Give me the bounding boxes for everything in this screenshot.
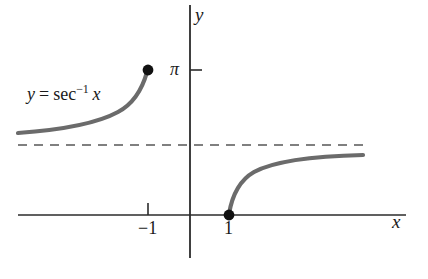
x-tick-label-negative-one: −1 [138, 219, 157, 237]
tick-marks-group [148, 70, 202, 215]
equation-argument: x [93, 84, 101, 104]
figure-container: y x π −1 1 y=sec−1x [0, 0, 428, 279]
x-tick-label-one: 1 [224, 219, 233, 237]
y-axis-label: y [195, 5, 203, 24]
sec-inverse-right-branch-curve [229, 155, 363, 214]
equation-lhs: y [27, 84, 35, 104]
axes-group [18, 5, 406, 258]
equation-equals-sign: = [39, 84, 49, 104]
equation-exponent: −1 [76, 82, 88, 96]
left-branch-endpoint-dot [143, 65, 154, 76]
equation-function-name: sec [53, 84, 76, 104]
plot-canvas [0, 0, 428, 279]
y-tick-label-pi: π [170, 60, 179, 78]
equation-annotation: y=sec−1x [27, 83, 101, 103]
x-axis-label: x [392, 212, 400, 231]
